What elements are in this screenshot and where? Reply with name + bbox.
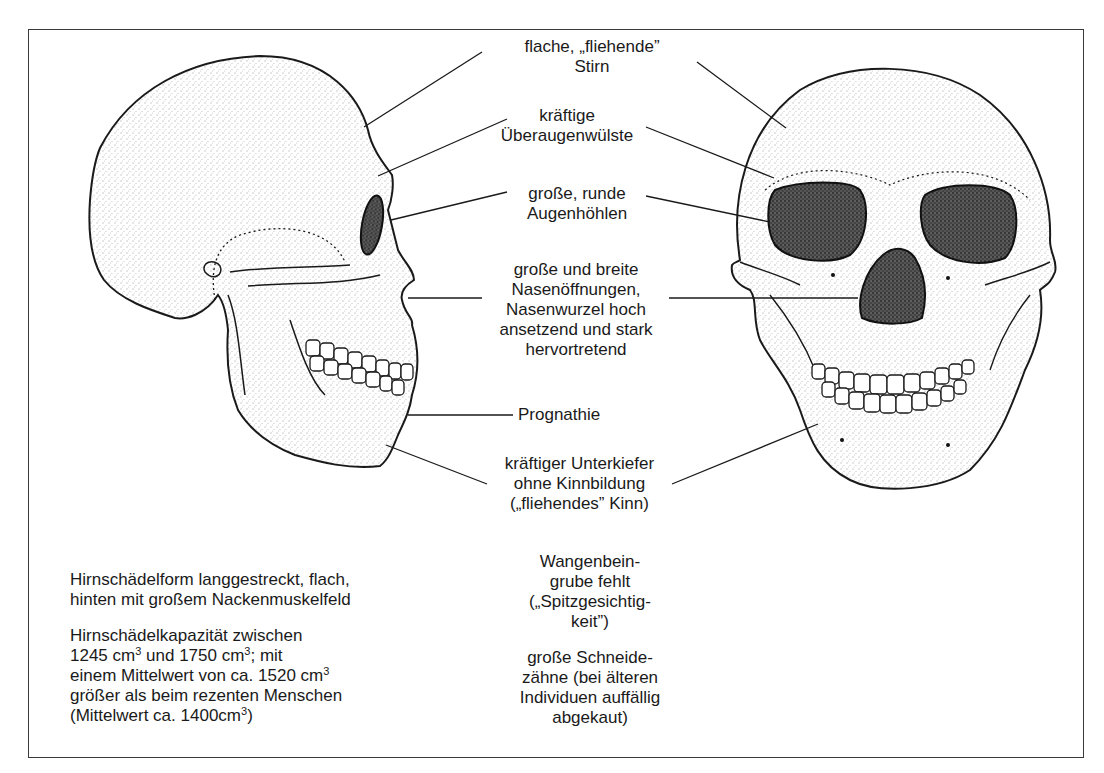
frontal-orbit-left: [768, 183, 866, 261]
note-capacity-line: Hirnschädelkapazität zwischen: [70, 626, 351, 646]
label-prognathism: Prognathie: [518, 405, 618, 425]
note-shape-line: hinten mit großem Nackenmuskelfeld: [70, 590, 351, 610]
label-orbits: große, runde Augenhöhlen: [507, 184, 647, 224]
lateral-skull: [89, 56, 417, 467]
note-shape-line: Hirnschädelform langgestreckt, flach,: [70, 570, 351, 590]
note-teeth: große Schneide- zähne (bei älteren Indiv…: [500, 648, 680, 728]
frontal-skull: [732, 69, 1056, 489]
note-capacity-line: einem Mittelwert von ca. 1520 cm3: [70, 666, 351, 686]
note-capacity-line: 1245 cm3 und 1750 cm3; mit: [70, 646, 351, 666]
label-forehead: flache, „fliehende” Stirn: [487, 37, 697, 77]
note-capacity-line: (Mittelwert ca. 1400cm3): [70, 706, 351, 726]
note-capacity-line: größer als beim rezenten Menschen: [70, 686, 351, 706]
label-brow-ridges: kräftige Überaugenwülste: [487, 106, 647, 146]
lateral-cranium-outline: [89, 56, 417, 467]
note-cheek: Wangenbein- grube fehlt („Spitzgesichtig…: [500, 552, 680, 632]
label-nose: große und breite Nasenöffnungen, Nasenwu…: [482, 260, 670, 360]
notes-left: Hirnschädelform langgestreckt, flach, hi…: [70, 570, 351, 726]
label-jaw: kräftiger Unterkiefer ohne Kinnbildung (…: [487, 454, 672, 514]
